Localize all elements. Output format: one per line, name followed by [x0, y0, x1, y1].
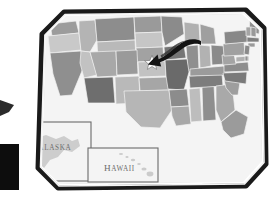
state-vermont	[246, 27, 251, 36]
state-mississippi	[189, 88, 202, 122]
state-oregon	[48, 33, 81, 53]
state-arkansas	[169, 89, 189, 107]
state-massachusetts	[247, 37, 259, 42]
inset-hawaii: HAWAII	[88, 148, 158, 182]
state-montana	[95, 17, 135, 42]
illustration-canvas: ALASKA HAWAII	[0, 0, 273, 198]
map-area: ALASKA HAWAII	[18, 10, 268, 188]
state-new-jersey	[244, 45, 250, 55]
state-colorado	[116, 50, 138, 75]
state-new-hampshire	[251, 27, 256, 37]
state-alabama	[202, 86, 216, 121]
state-north-dakota	[134, 16, 162, 33]
state-indiana	[199, 45, 211, 68]
left-edge-block	[0, 144, 19, 190]
state-oklahoma	[139, 77, 169, 91]
inset-hawaii-label: HAWAII	[104, 163, 135, 173]
state-missouri	[165, 59, 189, 90]
state-delaware	[245, 56, 248, 61]
framed-map-illustration: ALASKA HAWAII	[0, 0, 273, 198]
state-arizona	[84, 77, 115, 103]
state-new-york	[224, 30, 248, 44]
state-south-dakota	[135, 32, 163, 48]
